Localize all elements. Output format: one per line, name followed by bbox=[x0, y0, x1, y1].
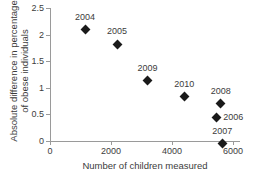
data-point-marker bbox=[211, 112, 221, 122]
data-point-label: 2005 bbox=[107, 27, 127, 36]
x-axis-line bbox=[50, 141, 240, 142]
data-point-label: 2004 bbox=[75, 13, 95, 22]
data-point-label: 2009 bbox=[138, 64, 158, 73]
y-axis-title-line-2: of obese individuals bbox=[19, 0, 30, 146]
data-point-label: 2007 bbox=[212, 127, 232, 136]
x-tick-label: 4000 bbox=[162, 147, 182, 156]
y-axis-line bbox=[50, 8, 51, 141]
y-axis-tick bbox=[46, 114, 50, 115]
data-point-marker bbox=[112, 39, 122, 49]
y-axis-title-line-1: Absolute difference in percentage bbox=[8, 0, 19, 146]
y-axis-tick bbox=[46, 88, 50, 89]
y-axis-tick bbox=[46, 35, 50, 36]
x-tick-label: 6000 bbox=[223, 147, 243, 156]
y-axis-tick bbox=[46, 61, 50, 62]
x-axis-tick bbox=[172, 141, 173, 145]
x-axis-title: Number of children measured bbox=[50, 160, 240, 171]
data-point-marker bbox=[216, 99, 226, 109]
x-tick-label: 2000 bbox=[101, 147, 121, 156]
scatter-chart: 00.511.522.5 0200040006000 Absolute diff… bbox=[0, 0, 265, 174]
data-point-marker bbox=[179, 92, 189, 102]
x-tick-label: 0 bbox=[47, 147, 52, 156]
data-point-label: 2008 bbox=[211, 87, 231, 96]
data-point-marker bbox=[80, 25, 90, 35]
x-axis-tick bbox=[50, 141, 51, 145]
data-point-label: 2010 bbox=[174, 80, 194, 89]
x-axis-tick bbox=[233, 141, 234, 145]
y-axis-tick bbox=[46, 8, 50, 9]
y-axis-title: Absolute difference in percentage of obe… bbox=[8, 0, 30, 146]
data-point-label: 2006 bbox=[223, 113, 243, 122]
data-point-marker bbox=[143, 76, 153, 86]
x-axis-tick bbox=[111, 141, 112, 145]
